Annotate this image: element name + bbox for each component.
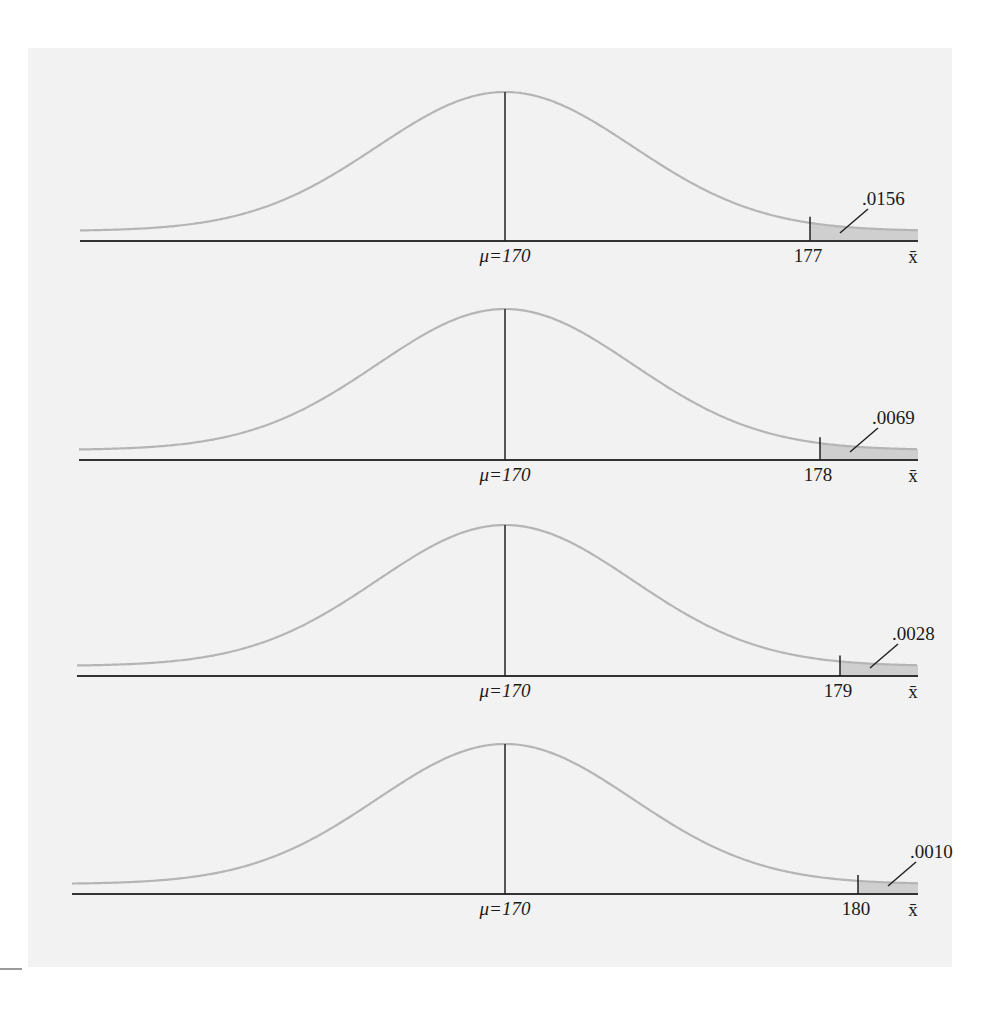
mean-label: μ=170 — [479, 245, 531, 266]
probability-label: .0069 — [872, 407, 915, 428]
mean-label: μ=170 — [479, 898, 531, 919]
probability-label: .0028 — [892, 623, 935, 644]
cutoff-label: 180 — [842, 898, 871, 919]
probability-label: .0010 — [910, 841, 953, 862]
probability-label: .0156 — [862, 188, 905, 209]
normal-curves-figure: μ=170 177 .0156 x̄ μ=170 178 .0069 x̄ μ=… — [0, 0, 987, 1014]
x-bar-axis-label: x̄ — [908, 899, 918, 920]
mean-label: μ=170 — [479, 464, 531, 485]
panel-2: μ=170 178 .0069 x̄ — [79, 309, 918, 486]
cutoff-label: 177 — [794, 245, 823, 266]
x-bar-axis-label: x̄ — [908, 246, 918, 267]
cutoff-label: 179 — [824, 680, 853, 701]
normal-curve — [72, 744, 918, 884]
panel-1: μ=170 177 .0156 x̄ — [80, 92, 918, 267]
normal-curve — [79, 309, 917, 449]
normal-curve — [77, 525, 917, 665]
x-bar-axis-label: x̄ — [908, 681, 918, 702]
normal-curve — [80, 92, 918, 230]
mean-label: μ=170 — [479, 680, 531, 701]
panel-4: μ=170 180 .0010 x̄ — [72, 744, 953, 920]
panel-3: μ=170 179 .0028 x̄ — [77, 525, 935, 702]
cutoff-label: 178 — [804, 464, 833, 485]
x-bar-axis-label: x̄ — [908, 465, 918, 486]
